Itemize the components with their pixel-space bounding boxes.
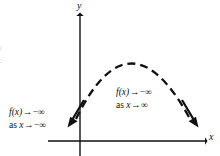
left-annotation-line2: as x→−∞: [9, 119, 46, 131]
parabola-plot: [0, 0, 220, 156]
right-limit-value: −∞: [140, 87, 152, 97]
right-annotation-line1: f(x)→−∞: [116, 87, 152, 97]
left-as-prefix: as: [9, 120, 17, 130]
y-axis-label: y: [77, 0, 81, 11]
page-margin-marks: у с: [0, 41, 9, 69]
right-function-label: f(x): [116, 87, 129, 97]
left-variable-label: x: [19, 120, 23, 130]
right-variable-label: x: [126, 100, 130, 110]
y-axis-arrowhead-icon: [76, 13, 83, 17]
right-as-prefix: as: [116, 100, 124, 110]
x-axis-arrowhead-icon: [205, 137, 208, 144]
end-behavior-figure: y x f(x)→−∞ as x→−∞ f(x)→−∞ as x→∞ у с: [0, 0, 220, 156]
x-axis-label: x: [209, 131, 213, 142]
right-end-behavior-annotation: f(x)→−∞ as x→∞: [116, 86, 152, 111]
right-arrow-icon: →: [129, 87, 140, 97]
parabola-right-tail: [182, 100, 195, 121]
left-arrow-icon: →: [22, 107, 33, 117]
left-end-behavior-annotation: f(x)→−∞ as x→−∞: [9, 106, 46, 131]
right-arrow-icon-2: →: [131, 100, 142, 110]
left-annotation-line1: f(x)→−∞: [9, 107, 45, 117]
parabola-right-arrowhead-icon: [189, 117, 199, 128]
right-annotation-line2: as x→∞: [116, 99, 152, 111]
right-variable-limit: ∞: [141, 100, 148, 110]
left-limit-value: −∞: [33, 107, 45, 117]
left-function-label: f(x): [9, 107, 22, 117]
margin-mark-1: у: [0, 41, 9, 54]
margin-mark-2: с: [0, 54, 9, 67]
left-variable-limit: −∞: [34, 120, 46, 130]
left-arrow-icon-2: →: [24, 120, 35, 130]
